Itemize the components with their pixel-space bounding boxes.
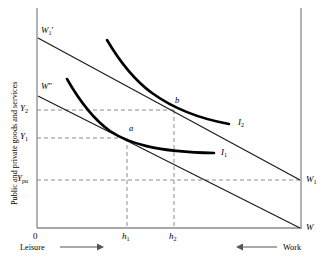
y-axis-title: Public and private goods and services bbox=[10, 82, 19, 205]
indifference-curve-i2 bbox=[107, 40, 229, 124]
point-label-a: a bbox=[129, 124, 133, 133]
tick-label-y2-sub: 2 bbox=[25, 108, 28, 114]
tick-label-h1: h1 bbox=[122, 232, 130, 242]
curve-label-i2: I2 bbox=[238, 118, 244, 128]
label-w1-prime-mark: ′ bbox=[52, 25, 54, 35]
label-w1-right-sub: 1 bbox=[314, 179, 317, 185]
work-arrow-head-icon bbox=[236, 244, 243, 251]
tick-label-y2: Y2 bbox=[20, 104, 28, 114]
budget-line-w1-prime bbox=[38, 38, 300, 180]
economics-indifference-curve-figure: Public and private goods and services W1… bbox=[0, 0, 330, 263]
tick-label-h1-sub: 1 bbox=[127, 236, 130, 242]
label-w1-right: W1 bbox=[306, 175, 317, 185]
tick-label-y1: Y1 bbox=[20, 132, 28, 142]
leisure-arrow-head-icon bbox=[97, 244, 104, 251]
label-w1-prime-base: W bbox=[41, 25, 49, 35]
tick-label-ypu: Ypu bbox=[17, 174, 28, 184]
label-w1-right-base: W bbox=[306, 174, 314, 184]
label-w-double-prime-base: W bbox=[41, 81, 49, 91]
curve-label-i1-sub: 1 bbox=[224, 152, 227, 158]
curve-label-i1: I1 bbox=[221, 148, 227, 158]
work-axis-label: Work bbox=[283, 243, 301, 252]
leisure-axis-label: Leisure bbox=[20, 243, 45, 252]
label-w-double-prime: W″ bbox=[41, 82, 52, 91]
indifference-curve-i1 bbox=[67, 79, 214, 153]
tick-label-y1-sub: 1 bbox=[25, 136, 28, 142]
label-w1-prime: W1′ bbox=[41, 26, 54, 36]
origin-label: 0 bbox=[33, 232, 38, 241]
figure-canvas bbox=[0, 0, 330, 263]
tick-label-h2: h2 bbox=[169, 232, 177, 242]
label-w-double-prime-mark: ″ bbox=[49, 81, 53, 91]
curve-label-i2-sub: 2 bbox=[241, 122, 244, 128]
label-w-right: W bbox=[306, 223, 314, 232]
budget-line-w-double-prime bbox=[38, 96, 300, 228]
tick-label-h2-sub: 2 bbox=[174, 236, 177, 242]
point-label-b: b bbox=[175, 96, 179, 105]
tick-label-ypu-sub: pu bbox=[22, 178, 28, 184]
